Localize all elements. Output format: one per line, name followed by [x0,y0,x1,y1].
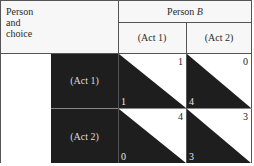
payoff-person-b: 4 [178,112,183,122]
payoff-cell-r1-c1: 1 1 [119,54,186,108]
diagonal-split-icon [119,109,186,163]
row-label-act-1: (Act 1) [51,75,118,86]
divider [118,22,252,23]
column-player-letter: B [197,6,203,17]
payoff-person-a: 4 [189,97,194,107]
payoff-person-a: 0 [121,152,126,162]
column-player-label: Person B [118,6,252,17]
payoff-person-a: 3 [189,152,194,162]
payoff-cell-r2-c1: 4 0 [119,109,186,163]
corner-label-person: Person [6,6,33,17]
column-player-name: Person [167,6,194,17]
payoff-cell-r1-c2: 0 4 [187,54,251,108]
diagonal-split-icon [187,54,251,108]
payoff-matrix: Person and choice Person B (Act 1) (Act … [0,0,252,163]
diagonal-split-icon [187,109,251,163]
divider [118,1,119,163]
payoff-person-b: 0 [243,57,248,67]
diagonal-split-icon [119,54,186,108]
payoff-person-b: 3 [243,112,248,122]
payoff-person-a: 1 [121,97,126,107]
divider [186,22,187,163]
payoff-person-b: 1 [178,57,183,67]
row-label-act-2: (Act 2) [51,131,118,142]
column-header-act-2: (Act 2) [186,32,252,43]
corner-label-and: and [6,17,20,28]
column-header-act-1: (Act 1) [118,32,186,43]
corner-label-choice: choice [6,28,32,39]
payoff-cell-r2-c2: 3 3 [187,109,251,163]
row-player-cell [1,53,51,163]
divider [1,53,252,54]
divider [51,108,252,109]
